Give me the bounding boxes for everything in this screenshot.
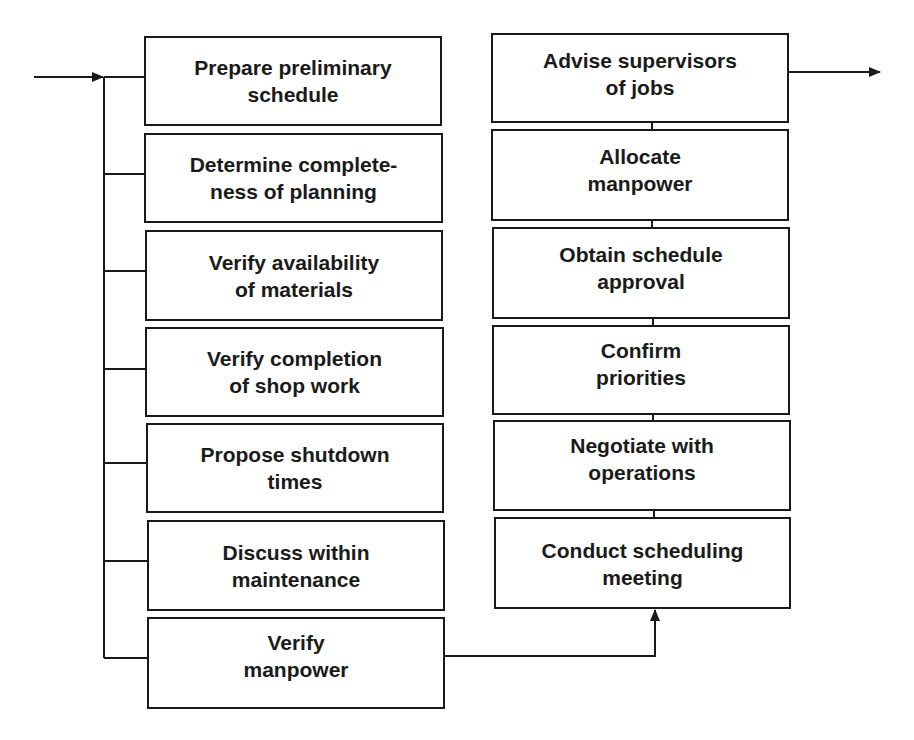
box-confirm-priorities: Confirmpriorities <box>492 325 790 415</box>
box-verify-shop-work: Verify completionof shop work <box>145 327 444 417</box>
box-text-line: Prepare preliminary <box>194 54 391 81</box>
box-verify-manpower: Verifymanpower <box>147 617 445 709</box>
box-conduct-meeting: Conduct schedulingmeeting <box>494 517 791 609</box>
connector-to-meeting <box>444 610 655 656</box>
box-text-line: manpower <box>587 170 692 197</box>
box-text-line: of materials <box>209 276 379 303</box>
box-text-line: operations <box>570 459 714 486</box>
box-text-line: times <box>201 468 390 495</box>
box-text-line: priorities <box>596 364 686 391</box>
box-text-line: schedule <box>194 81 391 108</box>
box-allocate-manpower: Allocatemanpower <box>491 129 789 221</box>
box-text-line: Verify availability <box>209 249 379 276</box>
box-discuss-maintenance: Discuss withinmaintenance <box>147 520 445 611</box>
box-negotiate-operations: Negotiate withoperations <box>493 420 791 511</box>
flowchart-canvas: Prepare preliminaryschedule Determine co… <box>0 0 914 740</box>
box-text-line: Allocate <box>587 143 692 170</box>
box-text-line: Confirm <box>596 337 686 364</box>
box-text-line: maintenance <box>222 566 369 593</box>
box-prepare-preliminary-schedule: Prepare preliminaryschedule <box>144 36 442 126</box>
box-text-line: of jobs <box>543 74 737 101</box>
box-advise-supervisors: Advise supervisorsof jobs <box>491 33 789 123</box>
box-text-line: of shop work <box>207 372 382 399</box>
box-text-line: Conduct scheduling <box>542 537 744 564</box>
box-determine-completeness: Determine complete-ness of planning <box>144 133 443 223</box>
box-text-line: Advise supervisors <box>543 47 737 74</box>
box-text-line: ness of planning <box>190 178 398 205</box>
box-text-line: meeting <box>542 564 744 591</box>
box-text-line: Obtain schedule <box>559 241 722 268</box>
box-obtain-approval: Obtain scheduleapproval <box>492 227 790 319</box>
box-text-line: Verify <box>243 629 348 656</box>
box-text-line: Verify completion <box>207 345 382 372</box>
box-text-line: Discuss within <box>222 539 369 566</box>
box-text-line: Determine complete- <box>190 151 398 178</box>
box-verify-materials: Verify availabilityof materials <box>145 230 443 321</box>
box-text-line: Negotiate with <box>570 432 714 459</box>
box-text-line: manpower <box>243 656 348 683</box>
box-text-line: approval <box>559 268 722 295</box>
box-propose-shutdown: Propose shutdowntimes <box>146 423 444 513</box>
box-text-line: Propose shutdown <box>201 441 390 468</box>
